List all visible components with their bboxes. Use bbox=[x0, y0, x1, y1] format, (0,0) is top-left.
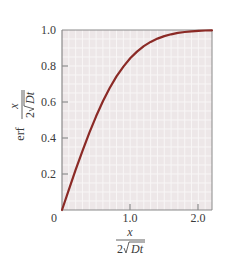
y-tick-label-0.6: 0.6 bbox=[41, 95, 56, 109]
y-axis-label: erf x 2 Dt bbox=[7, 90, 37, 141]
y-tick-label-0.2: 0.2 bbox=[41, 167, 56, 181]
y-tick-label-0.8: 0.8 bbox=[41, 59, 56, 73]
erf-chart: 1.0 0.8 0.6 0.4 0.2 0 1.0 2.0 x 2 Dt erf… bbox=[0, 0, 227, 262]
y-label-denom-2: 2 bbox=[23, 112, 37, 118]
y-label-numerator: x bbox=[7, 103, 21, 110]
y-tick-label-1.0: 1.0 bbox=[41, 23, 56, 37]
x-label-denom-Dt: Dt bbox=[130, 242, 144, 256]
y-label-denom-Dt: Dt bbox=[23, 91, 37, 105]
x-label-denom-2: 2 bbox=[117, 242, 123, 256]
gridlines bbox=[62, 30, 212, 210]
y-tick-label-0.4: 0.4 bbox=[41, 131, 56, 145]
x-tick-label-1.0: 1.0 bbox=[123, 211, 138, 225]
x-axis-label: x 2 Dt bbox=[116, 225, 145, 256]
x-label-numerator: x bbox=[126, 225, 133, 239]
origin-label: 0 bbox=[51, 211, 57, 225]
x-tick-label-2.0: 2.0 bbox=[191, 211, 206, 225]
y-label-erf: erf bbox=[13, 127, 27, 140]
